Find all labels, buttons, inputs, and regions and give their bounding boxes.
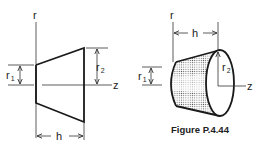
r-axis-label: r bbox=[170, 9, 174, 21]
figure-caption: Figure P.4.44 bbox=[171, 124, 230, 135]
frustum-large-end-ellipse bbox=[206, 50, 234, 116]
h-label: h bbox=[192, 27, 198, 39]
r1-label: r1 bbox=[138, 70, 147, 83]
z-axis-label: z bbox=[113, 79, 119, 91]
left-view: r z r1 r2 h bbox=[6, 9, 119, 142]
r1-label: r1 bbox=[6, 69, 15, 82]
frustum-diagram: r z r1 r2 h r bbox=[0, 0, 265, 148]
r-axis-label: r bbox=[33, 9, 37, 21]
h-label: h bbox=[56, 130, 62, 142]
right-view: r h z r2 r1 Figure P.4.44 bbox=[138, 9, 253, 135]
z-axis-label: z bbox=[247, 80, 253, 92]
r2-label: r2 bbox=[96, 61, 105, 74]
